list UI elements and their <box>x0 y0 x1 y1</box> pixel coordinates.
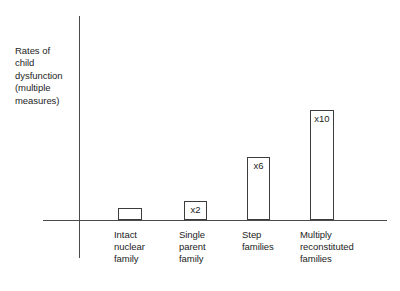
bar-value-label-3: x6 <box>248 160 269 171</box>
x-tick-label-step-families: Step families <box>242 229 274 253</box>
y-axis-label-line-4: (multiple <box>15 82 79 94</box>
bar-multiply-reconstituted-families: x10 <box>310 110 334 220</box>
x-tick-label-4-line-2: reconstituted <box>300 241 354 253</box>
x-tick-label-multiply-reconstituted-families: Multiply reconstituted families <box>300 229 354 266</box>
bar-intact-nuclear-family <box>118 208 142 220</box>
x-tick-label-3-line-1: Step <box>242 229 274 241</box>
x-tick-label-3-line-2: families <box>242 241 274 253</box>
x-tick-label-2-line-3: family <box>179 253 206 265</box>
x-tick-label-1-line-2: nuclear <box>114 241 145 253</box>
bar-value-label-2: x2 <box>185 204 206 215</box>
y-axis-label-line-2: child <box>15 57 79 69</box>
y-axis-label-line-1: Rates of <box>15 45 79 57</box>
bar-value-label-4: x10 <box>311 113 333 124</box>
x-axis-line <box>43 220 387 221</box>
y-axis-line <box>79 16 80 258</box>
bar-step-families: x6 <box>247 157 270 220</box>
x-tick-label-1-line-1: Intact <box>114 229 145 241</box>
x-tick-label-2-line-1: Single <box>179 229 206 241</box>
y-axis-label-line-5: measures) <box>15 95 79 107</box>
y-axis-label-line-3: dysfunction <box>15 70 79 82</box>
x-tick-label-4-line-1: Multiply <box>300 229 354 241</box>
x-tick-label-single-parent-family: Single parent family <box>179 229 206 266</box>
x-tick-label-2-line-2: parent <box>179 241 206 253</box>
bar-chart: Rates of child dysfunction (multiple mea… <box>0 0 400 291</box>
bar-single-parent-family: x2 <box>184 201 207 220</box>
x-tick-label-intact-nuclear-family: Intact nuclear family <box>114 229 145 266</box>
y-axis-label: Rates of child dysfunction (multiple mea… <box>15 45 79 107</box>
x-tick-label-4-line-3: families <box>300 253 354 265</box>
x-tick-label-1-line-3: family <box>114 253 145 265</box>
